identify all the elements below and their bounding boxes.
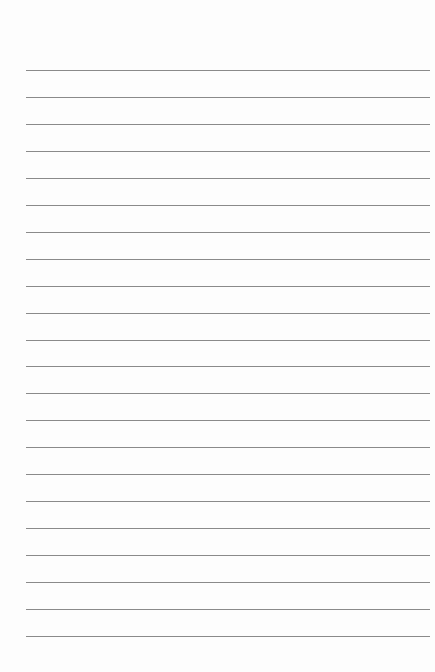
ruled-line bbox=[26, 151, 430, 152]
ruled-line bbox=[26, 205, 430, 206]
ruled-line bbox=[26, 474, 430, 475]
ruled-line bbox=[26, 636, 430, 637]
ruled-line bbox=[26, 393, 430, 394]
ruled-line bbox=[26, 366, 430, 367]
ruled-line bbox=[26, 340, 430, 341]
ruled-line bbox=[26, 178, 430, 179]
ruled-line bbox=[26, 609, 430, 610]
ruled-line bbox=[26, 528, 430, 529]
ruled-line bbox=[26, 286, 430, 287]
lined-paper-page bbox=[0, 0, 435, 672]
ruled-line bbox=[26, 232, 430, 233]
ruled-line bbox=[26, 259, 430, 260]
ruled-line bbox=[26, 555, 430, 556]
ruled-line bbox=[26, 313, 430, 314]
ruled-line bbox=[26, 501, 430, 502]
ruled-line bbox=[26, 447, 430, 448]
ruled-line bbox=[26, 97, 430, 98]
ruled-line bbox=[26, 124, 430, 125]
ruled-line bbox=[26, 70, 430, 71]
ruled-line bbox=[26, 582, 430, 583]
ruled-line bbox=[26, 420, 430, 421]
